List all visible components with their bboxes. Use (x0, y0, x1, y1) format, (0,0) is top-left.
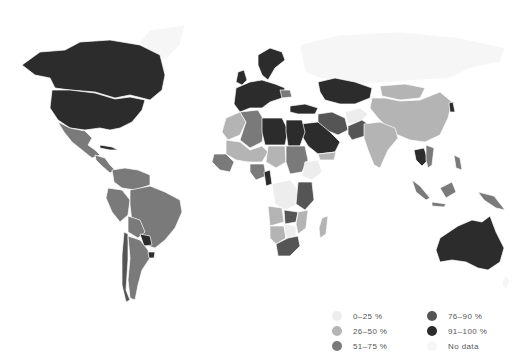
region-indonesia-java[interactable] (432, 202, 446, 207)
region-peru[interactable] (106, 188, 130, 222)
legend-item-26-50: 26–50 % (332, 324, 387, 338)
region-nigeria[interactable] (250, 164, 266, 180)
legend-swatch-icon (427, 326, 437, 336)
legend-label: 76–90 % (448, 312, 482, 321)
region-cameroon[interactable] (264, 170, 272, 186)
region-ethiopia[interactable] (302, 160, 322, 180)
region-india[interactable] (364, 122, 398, 168)
region-papua-new-guinea[interactable] (478, 192, 505, 210)
region-turkey[interactable] (290, 104, 318, 114)
world-map (0, 0, 518, 362)
region-uk[interactable] (236, 70, 247, 85)
region-australia[interactable] (436, 216, 504, 270)
region-mozambique[interactable] (296, 210, 308, 234)
region-romania[interactable] (280, 90, 292, 98)
region-brazil[interactable] (130, 186, 182, 248)
region-new-zealand[interactable] (502, 275, 510, 290)
legend-swatch-icon (332, 311, 342, 321)
map-legend: 0–25 % 26–50 % 51–75 % 76–90 % 91–100 % … (332, 309, 512, 359)
legend-item-51-75: 51–75 % (332, 339, 387, 353)
legend-label: No data (448, 342, 479, 351)
region-egypt[interactable] (286, 120, 305, 146)
region-botswana[interactable] (284, 224, 296, 238)
region-madagascar[interactable] (319, 216, 328, 238)
region-tanzania[interactable] (296, 182, 314, 210)
region-mongolia[interactable] (380, 84, 425, 100)
region-vietnam[interactable] (426, 145, 434, 168)
legend-item-0-25: 0–25 % (332, 309, 383, 323)
region-indonesia-borneo[interactable] (440, 182, 456, 198)
legend-label: 0–25 % (353, 312, 383, 321)
legend-swatch-icon (332, 326, 342, 336)
region-canada[interactable] (22, 40, 165, 100)
legend-item-76-90: 76–90 % (427, 309, 482, 323)
legend-label: 51–75 % (353, 342, 387, 351)
legend-swatch-icon (427, 311, 437, 321)
region-angola[interactable] (268, 206, 284, 226)
region-chad[interactable] (266, 146, 286, 168)
legend-item-91-100: 91–100 % (427, 324, 487, 338)
region-algeria[interactable] (240, 110, 265, 148)
legend-swatch-icon (332, 341, 342, 351)
region-zambia[interactable] (284, 210, 298, 224)
region-united-states[interactable] (50, 90, 145, 130)
legend-label: 91–100 % (448, 327, 487, 336)
region-scandinavia[interactable] (258, 48, 285, 80)
region-philippines[interactable] (454, 155, 462, 170)
region-libya[interactable] (262, 118, 288, 145)
region-dr-congo[interactable] (272, 180, 298, 210)
region-korea[interactable] (449, 102, 455, 112)
legend-swatch-icon (427, 341, 437, 351)
region-indonesia-sumatra[interactable] (412, 180, 430, 200)
legend-item-no-data: No data (427, 339, 479, 353)
region-russia[interactable] (300, 32, 505, 84)
region-colombia-venezuela[interactable] (112, 168, 150, 190)
region-cuba[interactable] (100, 145, 118, 150)
legend-label: 26–50 % (353, 327, 387, 336)
region-uruguay[interactable] (148, 252, 155, 258)
